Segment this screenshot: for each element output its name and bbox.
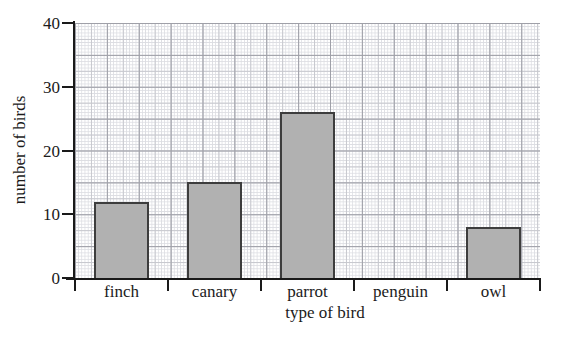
- x-category-label: parrot: [261, 282, 354, 302]
- bar-owl: [466, 227, 521, 278]
- x-category-label: canary: [168, 282, 261, 302]
- x-axis-title: type of bird: [285, 303, 364, 323]
- bar-finch: [94, 202, 149, 279]
- y-tick-label: 30: [0, 78, 60, 95]
- bar-parrot: [280, 112, 335, 278]
- y-tick-mark: [62, 213, 74, 215]
- y-tick-mark: [62, 86, 74, 88]
- y-tick-label: 20: [0, 142, 60, 159]
- y-tick-label: 0: [0, 270, 60, 287]
- y-tick-label: 10: [0, 206, 60, 223]
- bar-chart-figure: 010203040 finchcanaryparrotpenguinowl nu…: [0, 0, 565, 344]
- y-tick-mark: [62, 22, 74, 24]
- y-tick-label: 40: [0, 15, 60, 32]
- bar-canary: [187, 182, 242, 278]
- x-category-label: penguin: [354, 282, 447, 302]
- x-category-label: owl: [447, 282, 540, 302]
- x-axis-line: [66, 278, 541, 280]
- y-tick-mark: [62, 150, 74, 152]
- y-tick-mark: [62, 277, 74, 279]
- y-axis-title: number of birds: [10, 96, 30, 205]
- x-category-label: finch: [75, 282, 168, 302]
